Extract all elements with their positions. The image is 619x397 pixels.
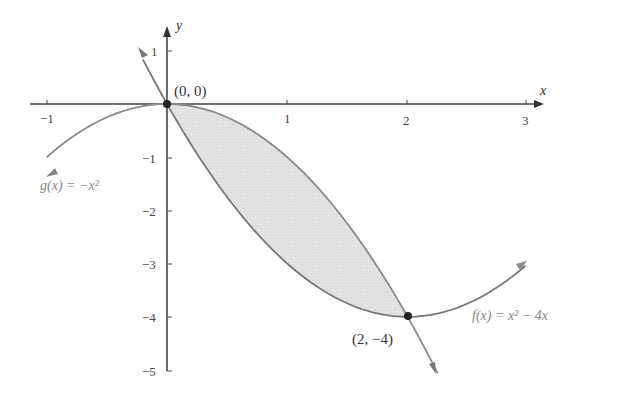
x-tick-label: 3 xyxy=(522,113,529,128)
y-tick-label: −5 xyxy=(142,364,156,379)
y-axis-label: y xyxy=(174,18,183,33)
y-tick-label: −4 xyxy=(142,310,156,325)
x-tick-label: 1 xyxy=(284,111,291,126)
g-function-label: g(x) = −x² xyxy=(40,178,100,194)
arrow-icon xyxy=(46,168,58,177)
y-tick-label: −2 xyxy=(142,204,156,219)
area-between-curves-chart: −1 1 2 3 x y 1 −1 −2 −3 −4 −5 (0, 0) (2,… xyxy=(0,0,619,397)
intersection-point xyxy=(404,312,412,320)
origin-label: (0, 0) xyxy=(174,83,207,100)
origin-point xyxy=(163,100,171,108)
y-tick-label: −1 xyxy=(142,151,156,166)
x-tick-label: 2 xyxy=(403,113,410,128)
y-tick-label: −3 xyxy=(142,257,156,272)
y-tick-label: 1 xyxy=(151,44,158,59)
f-function-label: f(x) = x² − 4x xyxy=(472,308,549,324)
x-axis xyxy=(30,100,544,108)
arrow-icon xyxy=(429,362,436,374)
x-tick-label: −1 xyxy=(40,111,54,126)
x-axis-label: x xyxy=(539,83,547,98)
arrow-icon xyxy=(138,47,148,58)
intersection-label: (2, −4) xyxy=(352,331,393,348)
shaded-region xyxy=(167,104,408,317)
y-axis xyxy=(163,26,172,371)
